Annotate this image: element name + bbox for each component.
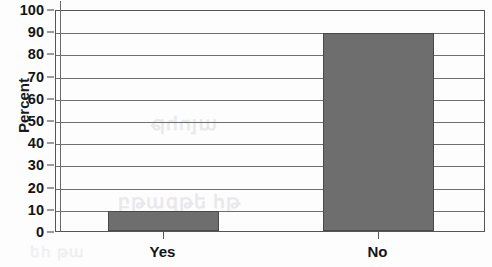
y-tick-mark-0: [47, 232, 54, 233]
x-tick-mark-yes: [163, 232, 164, 239]
y-tick-label-70: 70: [0, 69, 44, 84]
y-tick-mark-100: [47, 10, 54, 11]
y-tick-mark-60: [47, 98, 54, 99]
y-tick-mark-70: [47, 76, 54, 77]
y-tick-mark-30: [47, 165, 54, 166]
bar-chart: բթազթե հթ ալոհթ եհ թա Percent 0102030405…: [0, 0, 492, 267]
y-tick-label-10: 10: [0, 203, 44, 218]
x-tick-mark-no: [378, 232, 379, 239]
y-tick-mark-90: [47, 32, 54, 33]
x-tick-label-yes: Yes: [150, 243, 176, 260]
y-tick-label-100: 100: [0, 3, 44, 18]
y-tick-label-80: 80: [0, 47, 44, 62]
y-tick-mark-40: [47, 143, 54, 144]
y-tick-label-40: 40: [0, 136, 44, 151]
y-tick-label-30: 30: [0, 158, 44, 173]
y-tick-mark-50: [47, 121, 54, 122]
y-tick-mark-20: [47, 187, 54, 188]
y-tick-label-20: 20: [0, 180, 44, 195]
y-tick-label-0: 0: [0, 225, 44, 240]
bar-no: [323, 33, 435, 231]
bar-yes: [108, 211, 220, 231]
y-tick-label-60: 60: [0, 92, 44, 107]
y-axis-tick-labels: 0102030405060708090100: [0, 0, 44, 267]
y-tick-label-50: 50: [0, 114, 44, 129]
x-tick-label-no: No: [368, 243, 388, 260]
plot-area: [55, 10, 485, 232]
y-tick-label-90: 90: [0, 25, 44, 40]
y-tick-mark-80: [47, 54, 54, 55]
y-tick-mark-10: [47, 209, 54, 210]
